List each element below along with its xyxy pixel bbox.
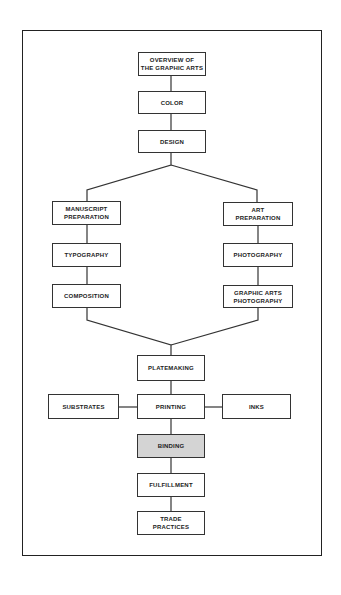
node-typography: TYPOGRAPHY (52, 243, 121, 267)
node-inks: INKS (222, 394, 291, 419)
node-manuscript-preparation: MANUSCRIPT PREPARATION (52, 201, 121, 225)
node-overview: OVERVIEW OF THE GRAPHIC ARTS (138, 52, 206, 76)
node-graphic-arts-photography: GRAPHIC ARTS PHOTOGRAPHY (223, 285, 293, 308)
node-trade-practices: TRADE PRACTICES (137, 511, 205, 535)
node-binding: BINDING (137, 434, 205, 458)
node-photography: PHOTOGRAPHY (223, 243, 293, 267)
node-color: COLOR (138, 91, 206, 114)
node-art-preparation: ART PREPARATION (223, 202, 293, 226)
node-printing: PRINTING (137, 394, 205, 419)
node-composition: COMPOSITION (52, 284, 121, 308)
node-design: DESIGN (138, 130, 206, 153)
node-platemaking: PLATEMAKING (137, 355, 205, 381)
node-fulfillment: FULFILLMENT (137, 473, 205, 497)
node-substrates: SUBSTRATES (48, 394, 119, 419)
